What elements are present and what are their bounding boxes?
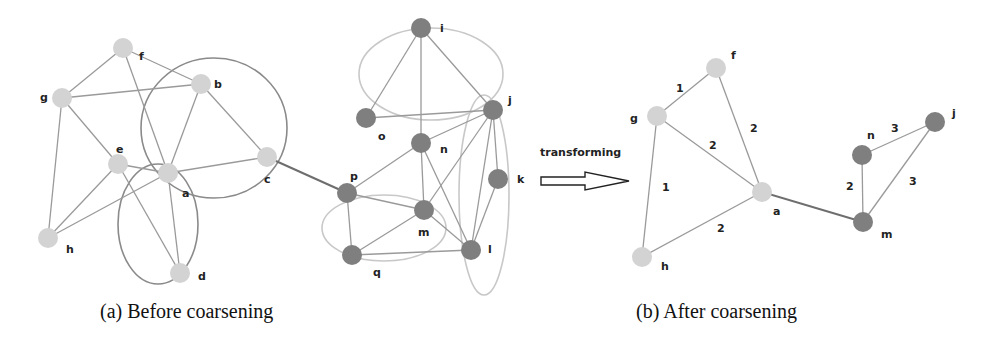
- caption-after: (b) After coarsening: [636, 300, 797, 323]
- node-e: e: [108, 143, 128, 174]
- edge-g-b: [62, 84, 201, 98]
- edge-weight-label: 2: [846, 180, 854, 193]
- node-label: a: [182, 187, 189, 200]
- edge-j-k: [493, 110, 498, 179]
- node-n: n: [411, 133, 448, 156]
- node-circle: [483, 100, 503, 120]
- node-b: b: [191, 74, 222, 94]
- edge-weight-label: 2: [709, 139, 717, 152]
- node-label: g: [40, 91, 48, 104]
- edge-h-a: [642, 192, 762, 257]
- node-circle: [647, 106, 667, 126]
- node-f: f: [113, 38, 144, 63]
- node-label: b: [214, 78, 222, 91]
- edge-n-m: [421, 143, 424, 210]
- node-circle: [191, 74, 211, 94]
- node-o: o: [356, 108, 386, 143]
- edge-a-d: [168, 173, 180, 273]
- edge-o-j: [366, 110, 493, 118]
- node-circle: [853, 212, 873, 232]
- node-label: f: [731, 49, 736, 62]
- node-circle: [925, 112, 945, 132]
- node-m: m: [414, 200, 434, 239]
- node-label: l: [488, 243, 492, 256]
- node-c: c: [257, 147, 277, 186]
- node-label: g: [630, 112, 638, 125]
- edge-n-m: [862, 155, 863, 222]
- node-circle: [257, 147, 277, 167]
- cluster-ellipses-before: [118, 28, 509, 295]
- node-p: p: [337, 170, 358, 203]
- node-circle: [461, 240, 481, 260]
- node-m: m: [853, 212, 892, 241]
- node-circle: [170, 263, 190, 283]
- node-d: d: [170, 263, 206, 283]
- node-circle: [52, 88, 72, 108]
- edge-b-c: [201, 84, 267, 157]
- node-label: f: [139, 50, 144, 63]
- node-label: m: [418, 226, 429, 239]
- node-a: a: [752, 182, 780, 218]
- edge-n-p: [347, 143, 421, 193]
- node-circle: [411, 18, 431, 38]
- node-circle: [488, 169, 508, 189]
- node-circle: [337, 183, 357, 203]
- node-f: f: [706, 49, 736, 78]
- edge-weight-label: 3: [891, 122, 899, 135]
- coarsening-diagram: fbgeachdiojnkpmql 12212323 fgahnjm: [0, 0, 991, 342]
- node-circle: [752, 182, 772, 202]
- edge-q-l: [352, 250, 471, 255]
- node-a: a: [158, 163, 189, 200]
- edge-i-j: [421, 28, 493, 110]
- caption-before: (a) Before coarsening: [100, 300, 273, 323]
- edge-g-h: [48, 98, 62, 238]
- edge-g-h: [642, 116, 657, 257]
- edge-weight-label: 3: [909, 175, 917, 188]
- node-circle: [108, 154, 128, 174]
- edge-weight-label: 2: [717, 222, 725, 235]
- edge-k-l: [471, 179, 498, 250]
- node-label: d: [198, 270, 206, 283]
- node-circle: [158, 163, 178, 183]
- node-label: j: [507, 94, 512, 107]
- node-label: p: [350, 170, 358, 183]
- node-label: n: [440, 143, 448, 156]
- node-h: h: [632, 247, 669, 273]
- node-label: c: [264, 173, 271, 186]
- node-label: j: [951, 107, 956, 120]
- node-j: j: [483, 94, 512, 120]
- transform-arrow-icon: [541, 172, 629, 190]
- edge-weight-label: 2: [750, 122, 758, 135]
- transforming-label: transforming: [540, 146, 621, 159]
- node-g: g: [40, 88, 72, 108]
- node-label: i: [440, 22, 444, 35]
- node-g: g: [630, 106, 667, 126]
- node-label: n: [867, 129, 875, 142]
- cluster-ellipse: [359, 28, 503, 120]
- edge-weight-label: 1: [676, 82, 684, 95]
- node-circle: [38, 228, 58, 248]
- node-circle: [632, 247, 652, 267]
- node-h: h: [38, 228, 74, 256]
- edge-m-q: [352, 210, 424, 255]
- node-l: l: [461, 240, 492, 260]
- node-q: q: [342, 245, 381, 279]
- edge-e-h: [48, 164, 118, 238]
- edge-g-e: [62, 98, 118, 164]
- node-label: a: [773, 205, 780, 218]
- node-label: h: [66, 243, 74, 256]
- node-label: h: [661, 260, 669, 273]
- edge-g-a: [657, 116, 762, 192]
- node-n: n: [852, 129, 875, 165]
- node-label: q: [373, 266, 381, 279]
- node-k: k: [488, 169, 525, 189]
- node-label: k: [517, 173, 525, 186]
- edge-weight-label: 1: [662, 181, 670, 194]
- cluster-ellipse: [459, 95, 509, 295]
- edge-c-p: [267, 157, 347, 193]
- node-j: j: [925, 107, 956, 132]
- edge-g-f: [657, 68, 716, 116]
- node-label: e: [116, 143, 123, 156]
- node-circle: [411, 133, 431, 153]
- edge-a-h: [48, 173, 168, 238]
